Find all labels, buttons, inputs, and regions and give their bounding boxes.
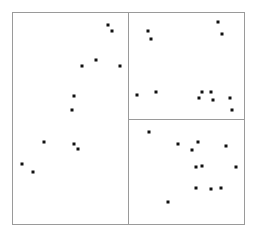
data-point xyxy=(235,166,238,169)
data-point xyxy=(225,145,228,148)
data-point xyxy=(111,30,114,33)
data-point xyxy=(201,91,204,94)
scatter-chart xyxy=(0,0,257,235)
data-point xyxy=(71,109,74,112)
data-point xyxy=(191,149,194,152)
data-point xyxy=(201,165,204,168)
data-point xyxy=(32,171,35,174)
panel-frames xyxy=(13,13,245,225)
data-point xyxy=(198,97,201,100)
data-point xyxy=(212,99,215,102)
data-point xyxy=(43,141,46,144)
data-point xyxy=(197,141,200,144)
data-point xyxy=(77,148,80,151)
data-point xyxy=(147,30,150,33)
data-point xyxy=(107,24,110,27)
panel-frame-top-right xyxy=(129,13,245,120)
data-point xyxy=(210,91,213,94)
data-point xyxy=(177,143,180,146)
data-point xyxy=(119,65,122,68)
data-point xyxy=(229,97,232,100)
data-point xyxy=(95,59,98,62)
panel-frame-left xyxy=(13,13,129,225)
data-point xyxy=(73,95,76,98)
data-point xyxy=(81,65,84,68)
panel-frame-bottom-right xyxy=(129,120,245,225)
data-point xyxy=(21,163,24,166)
data-point xyxy=(217,21,220,24)
data-point xyxy=(195,166,198,169)
data-point xyxy=(155,91,158,94)
data-point xyxy=(220,187,223,190)
data-point xyxy=(231,109,234,112)
data-point xyxy=(195,187,198,190)
data-point xyxy=(136,94,139,97)
data-point xyxy=(73,143,76,146)
data-point xyxy=(167,201,170,204)
data-point xyxy=(221,33,224,36)
data-point xyxy=(148,131,151,134)
data-point xyxy=(210,188,213,191)
data-point xyxy=(150,38,153,41)
